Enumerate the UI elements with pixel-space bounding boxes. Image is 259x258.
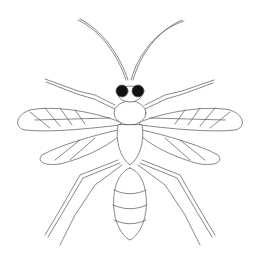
- abdomen: [113, 168, 147, 240]
- wasp-illustration: wasp: [0, 0, 259, 258]
- antennae: [78, 19, 184, 80]
- thorax: [114, 101, 146, 165]
- wasp-drawing: [0, 0, 259, 258]
- head: [116, 85, 144, 102]
- right-eye: [132, 85, 144, 97]
- left-eye: [116, 85, 128, 97]
